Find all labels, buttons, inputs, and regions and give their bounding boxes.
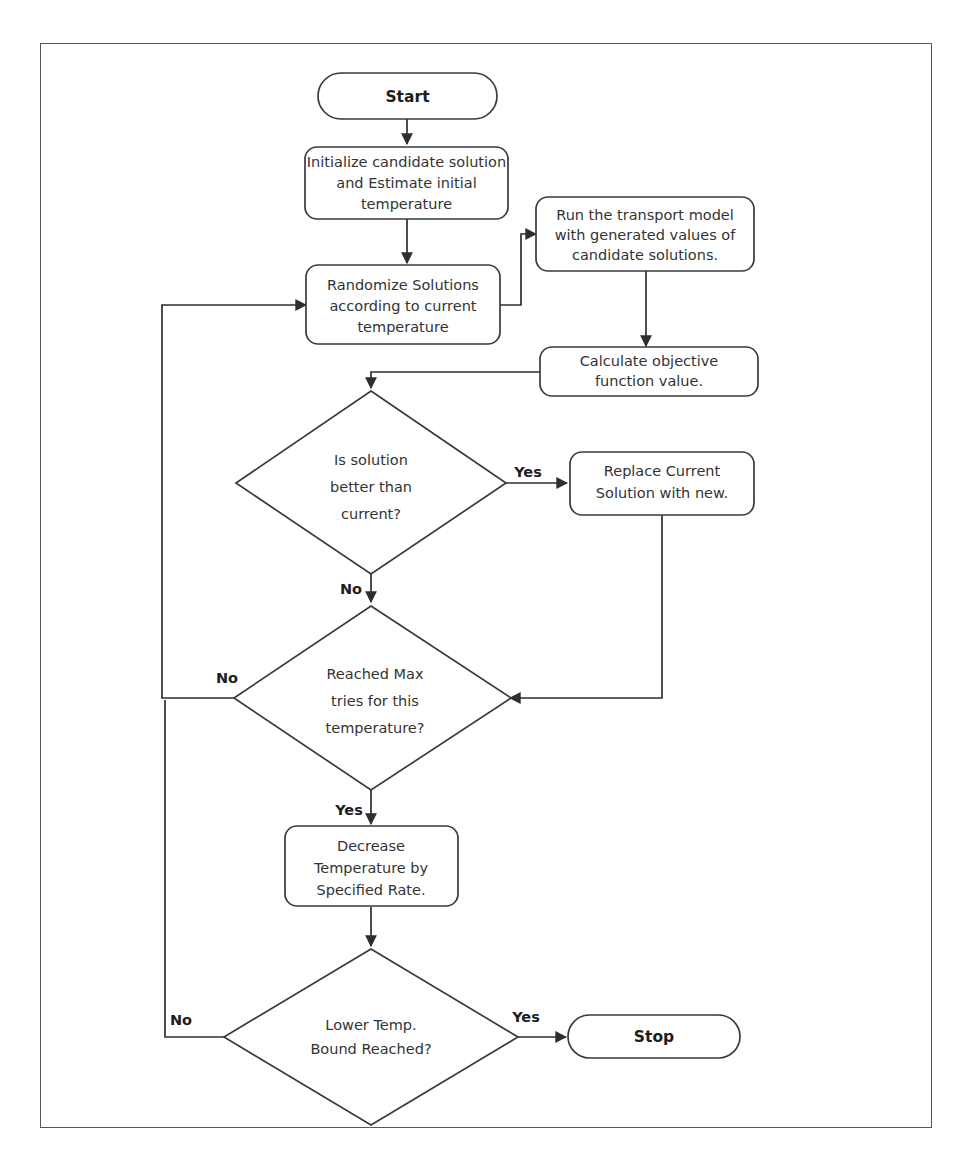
node-replace[interactable]: Replace Current Solution with new. [570, 452, 754, 515]
run-model-label-line-3: candidate solutions. [572, 247, 718, 263]
node-lower-bound[interactable]: Lower Temp. Bound Reached? [224, 949, 518, 1125]
start-label: Start [385, 88, 430, 106]
decrease-temp-label-line-2: Temperature by [313, 860, 429, 876]
node-decrease-temp[interactable]: Decrease Temperature by Specified Rate. [285, 826, 458, 906]
replace-label-line-1: Replace Current [604, 463, 721, 479]
lower-bound-label-line-1: Lower Temp. [325, 1017, 416, 1033]
decrease-temp-label-line-3: Specified Rate. [316, 882, 425, 898]
node-run-model[interactable]: Run the transport model with generated v… [536, 197, 754, 271]
decrease-temp-label-line-1: Decrease [337, 838, 405, 854]
flowchart-page: Start Initialize candidate solution and … [0, 0, 968, 1153]
node-initialize[interactable]: Initialize candidate solution and Estima… [305, 147, 508, 219]
edge-label-lower-bound-no: No [170, 1012, 192, 1028]
edge-label-lower-bound-yes: Yes [511, 1009, 540, 1025]
max-tries-label-line-2: tries for this [331, 693, 419, 709]
node-start[interactable]: Start [318, 73, 497, 119]
initialize-label-line-3: temperature [361, 196, 452, 212]
is-better-label-line-2: better than [330, 479, 412, 495]
max-tries-label-line-3: temperature? [326, 720, 425, 736]
max-tries-label-line-1: Reached Max [326, 666, 424, 682]
edge-randomize-to-run-model [500, 234, 536, 305]
is-better-label-line-3: current? [341, 506, 401, 522]
node-stop[interactable]: Stop [568, 1015, 740, 1058]
node-randomize[interactable]: Randomize Solutions according to current… [306, 265, 500, 344]
randomize-label-line-1: Randomize Solutions [327, 277, 479, 293]
edge-lower-bound-no-to-loop [165, 700, 224, 1037]
initialize-label-line-1: Initialize candidate solution [307, 154, 506, 170]
randomize-label-line-2: according to current [329, 298, 476, 314]
flowchart-canvas: Start Initialize candidate solution and … [0, 0, 968, 1153]
replace-label-line-2: Solution with new. [596, 485, 728, 501]
edge-label-is-better-no: No [340, 581, 362, 597]
edge-replace-to-max-tries [510, 515, 662, 698]
run-model-label-line-1: Run the transport model [556, 207, 734, 223]
node-calculate[interactable]: Calculate objective function value. [540, 347, 758, 396]
initialize-label-line-2: and Estimate initial [336, 175, 476, 191]
replace-shape [570, 452, 754, 515]
edge-calculate-to-is-better [371, 372, 540, 388]
node-is-better[interactable]: Is solution better than current? [236, 391, 506, 574]
edge-label-max-tries-no: No [216, 670, 238, 686]
is-better-label-line-1: Is solution [334, 452, 408, 468]
edge-label-is-better-yes: Yes [513, 464, 542, 480]
run-model-label-line-2: with generated values of [555, 227, 737, 243]
lower-bound-shape [224, 949, 518, 1125]
edge-label-max-tries-yes: Yes [334, 802, 363, 818]
randomize-label-line-3: temperature [357, 319, 448, 335]
calculate-label-line-1: Calculate objective [580, 353, 719, 369]
lower-bound-label-line-2: Bound Reached? [310, 1041, 431, 1057]
node-max-tries[interactable]: Reached Max tries for this temperature? [234, 606, 511, 790]
stop-label: Stop [634, 1028, 674, 1046]
calculate-label-line-2: function value. [595, 373, 703, 389]
